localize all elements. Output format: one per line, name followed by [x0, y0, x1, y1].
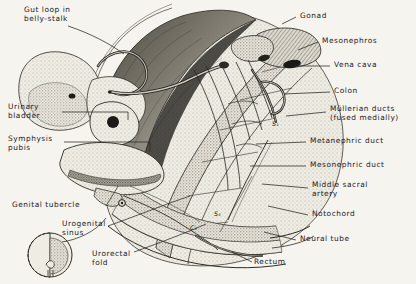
label-mesonephros: Mesonephros — [322, 37, 377, 46]
inset-cross-section — [28, 233, 72, 277]
label-urogenital-sinus: Urogenital sinus — [62, 220, 106, 237]
label-middle-sacral-artery: Middle sacral artery — [312, 181, 368, 198]
marker-c1: C₁ — [190, 224, 197, 231]
label-rectum: Rectum — [254, 258, 286, 267]
label-neural-tube: Neural tube — [300, 235, 350, 244]
label-mullerian-ducts: Müllerian ducts (fused medially) — [330, 105, 399, 122]
label-gonad: Gonad — [300, 12, 327, 21]
label-gut-loop: Gut loop in belly-stalk — [24, 6, 71, 23]
marker-s5: S₅ — [214, 210, 221, 217]
label-genital-tubercle: Genital tubercle — [12, 201, 80, 210]
label-symphysis-pubis: Symphysis pubis — [8, 135, 53, 152]
label-colon: Colon — [334, 87, 358, 96]
label-urorectal-fold: Urorectal fold — [92, 250, 131, 267]
label-vena-cava: Vena cava — [334, 61, 377, 70]
marker-s1: S₁ — [272, 120, 279, 127]
label-urinary-bladder: Urinary bladder — [8, 103, 40, 120]
anatomical-figure: Gut loop in belly-stalk Urinary bladder … — [0, 0, 416, 284]
label-notochord: Notochord — [312, 210, 355, 219]
label-metanephric-duct: Metanephric duct — [310, 137, 384, 146]
label-mesonephric-duct: Mesonephric duct — [310, 161, 385, 170]
